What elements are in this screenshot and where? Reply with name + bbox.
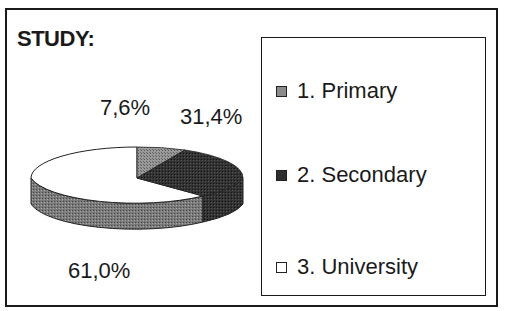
label-university: 61,0% — [68, 258, 130, 284]
legend-label: 3. University — [297, 254, 418, 280]
swatch-secondary-icon — [276, 170, 287, 181]
swatch-primary-icon — [276, 86, 287, 97]
legend-item-university: 3. University — [276, 254, 418, 280]
legend: 1. Primary 2. Secondary 3. University — [261, 37, 486, 296]
legend-item-primary: 1. Primary — [276, 78, 397, 104]
swatch-university-icon — [276, 262, 287, 273]
label-secondary: 31,4% — [180, 104, 242, 130]
legend-label: 1. Primary — [297, 78, 397, 104]
legend-item-secondary: 2. Secondary — [276, 162, 427, 188]
legend-label: 2. Secondary — [297, 162, 427, 188]
label-primary: 7,6% — [100, 95, 150, 121]
